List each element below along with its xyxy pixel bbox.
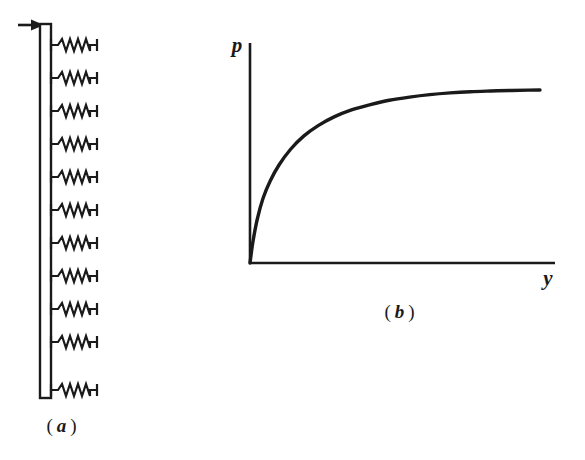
pressure-displacement-curve	[250, 90, 540, 263]
spring-3	[51, 105, 97, 117]
vertical-wall	[40, 24, 51, 398]
y-axis-label: p	[230, 33, 243, 57]
spring-9	[51, 303, 97, 315]
spring-7	[51, 237, 97, 249]
panel-a-group: (a)	[18, 20, 97, 438]
spring-8	[51, 270, 97, 282]
spring-11	[51, 384, 97, 396]
spring-6	[51, 204, 97, 216]
panel-b-caption: (b)	[384, 301, 415, 323]
spring-array	[51, 39, 97, 396]
panel-a-caption: (a)	[46, 415, 77, 437]
x-axis-label: y	[540, 266, 553, 290]
spring-10	[51, 336, 97, 348]
panel-b-group: p y (b)	[230, 33, 555, 323]
spring-5	[51, 171, 97, 183]
spring-2	[51, 72, 97, 84]
spring-1	[51, 39, 97, 51]
spring-4	[51, 138, 97, 150]
figure-canvas: (a) p y (b)	[0, 0, 585, 460]
